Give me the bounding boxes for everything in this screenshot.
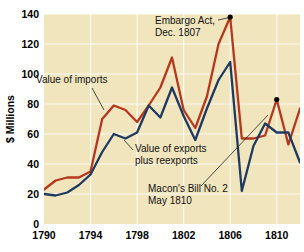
annotation-text-macons-bill: Macon's Bill No. 2 [148, 183, 228, 194]
x-tick-label: 1810 [265, 229, 289, 241]
y-tick-label: 0 [33, 218, 39, 230]
annotation-text-macons-bill: May 1810 [148, 195, 192, 206]
y-axis-ticks: 020406080100120140 [21, 8, 39, 230]
y-axis-title: $ Millions [4, 95, 16, 143]
x-tick-label: 1790 [32, 229, 56, 241]
annotation-marker-macons-bill [274, 97, 279, 102]
annotation-text-exports-label: Value of exports [135, 143, 207, 154]
chart-figure: Embargo Act,Dec. 1807Macon's Bill No. 2M… [0, 0, 304, 252]
x-tick-label: 1798 [125, 229, 149, 241]
x-tick-label: 1806 [219, 229, 243, 241]
line-chart: Embargo Act,Dec. 1807Macon's Bill No. 2M… [0, 0, 304, 252]
y-tick-label: 20 [27, 188, 39, 200]
y-tick-label: 60 [27, 128, 39, 140]
y-tick-label: 120 [21, 38, 39, 50]
annotation-text-embargo-act: Dec. 1807 [155, 27, 201, 38]
annotation-text-exports-label: plus reexports [135, 155, 198, 166]
y-tick-label: 140 [21, 8, 39, 20]
annotation-text-imports-label: Value of imports [36, 74, 108, 85]
y-tick-label: 40 [27, 158, 39, 170]
y-tick-label: 100 [21, 68, 39, 80]
annotation-marker-embargo-act [228, 14, 233, 19]
annotation-text-embargo-act: Embargo Act, [155, 15, 215, 26]
x-tick-label: 1802 [172, 229, 196, 241]
x-axis-ticks: 179017941798180218061810 [32, 229, 288, 241]
x-tick-label: 1794 [79, 229, 103, 241]
y-tick-label: 80 [27, 98, 39, 110]
